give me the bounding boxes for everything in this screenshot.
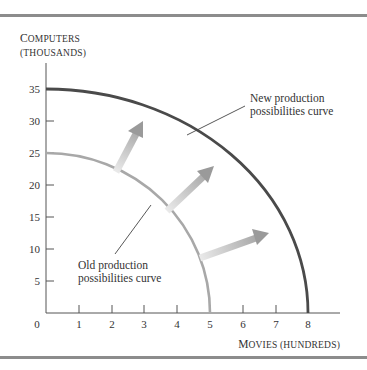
svg-text:20: 20 xyxy=(29,179,41,191)
y-ticks xyxy=(46,89,54,281)
new-curve-label-line2: possibilities curve xyxy=(250,105,333,118)
svg-text:30: 30 xyxy=(29,115,41,127)
old-ppf-curve xyxy=(46,153,210,313)
shift-arrow-2 xyxy=(167,166,214,211)
svg-text:15: 15 xyxy=(29,211,41,223)
y-tick-labels: 5 10 15 20 25 30 35 xyxy=(29,83,41,287)
svg-text:4: 4 xyxy=(174,318,180,330)
svg-text:6: 6 xyxy=(240,318,246,330)
x-tick-labels: 0 1 2 3 4 5 6 7 8 xyxy=(34,318,311,330)
old-curve-leader xyxy=(115,205,151,254)
svg-text:3: 3 xyxy=(141,318,147,330)
svg-text:35: 35 xyxy=(29,83,41,95)
shift-arrow-1 xyxy=(116,121,143,172)
new-curve-label: New production xyxy=(250,92,325,105)
bottom-rule xyxy=(0,356,367,359)
y-axis-unit: (THOUSANDS) xyxy=(20,48,86,59)
svg-text:5: 5 xyxy=(35,275,41,287)
x-ticks xyxy=(79,305,308,313)
svg-text:1: 1 xyxy=(76,318,82,330)
top-rule xyxy=(0,14,367,17)
svg-text:10: 10 xyxy=(29,243,41,255)
shift-arrow-3 xyxy=(200,229,269,258)
svg-text:8: 8 xyxy=(305,318,311,330)
y-axis-title: COMPUTERS xyxy=(20,32,80,44)
svg-text:7: 7 xyxy=(273,318,279,330)
svg-text:25: 25 xyxy=(29,147,41,159)
x-axis-title: MOVIES (HUNDREDS) xyxy=(238,338,340,351)
svg-text:2: 2 xyxy=(109,318,115,330)
ppf-chart: COMPUTERS (THOUSANDS) 5 10 15 20 25 30 3… xyxy=(0,0,367,370)
svg-text:5: 5 xyxy=(207,318,213,330)
old-curve-label: Old production xyxy=(78,259,148,272)
old-curve-label-line2: possibilities curve xyxy=(78,272,161,285)
new-curve-leader xyxy=(187,106,245,135)
svg-text:0: 0 xyxy=(34,318,40,330)
